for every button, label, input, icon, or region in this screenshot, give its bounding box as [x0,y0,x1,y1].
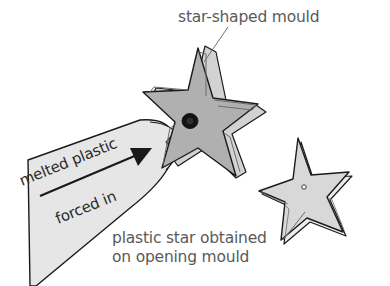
plastic-star-caption-line-1: plastic star obtained [112,229,267,247]
plastic-star-gate-mark [302,185,306,189]
diagram-canvas: star-shaped mould plastic star obtained … [0,0,390,286]
mould-label: star-shaped mould [178,8,319,26]
injection-port-inner [187,118,194,124]
injection-moulding-diagram: star-shaped mould plastic star obtained … [0,0,390,286]
plastic-star-caption-line-2: on opening mould [112,248,249,266]
plastic-star-group [259,138,352,244]
